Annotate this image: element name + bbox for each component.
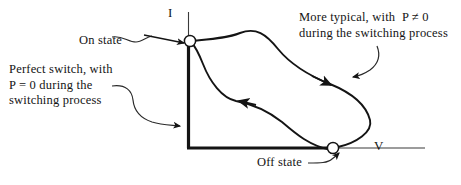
more-typical-leader [353, 46, 379, 77]
on-state-marker [184, 35, 195, 46]
off-state-label: Off state [257, 155, 302, 171]
lower-switching-curve [191, 42, 331, 150]
on-state-label: On state [79, 33, 122, 49]
off-state-marker [327, 142, 338, 153]
perfect-switch-leader [112, 86, 180, 126]
off-state-leader [308, 153, 339, 163]
more-typical-annotation: More typical, with P ≠ 0 during the swit… [299, 10, 448, 41]
on-state-leader-arrow [144, 35, 184, 43]
i-axis-label: I [168, 5, 172, 21]
upper-curve-direction-arrow [312, 76, 331, 85]
v-axis-label: V [374, 138, 383, 154]
iv-switching-diagram: I V On state Off state Perfect switch, w… [0, 0, 461, 185]
perfect-switch-annotation: Perfect switch, with P = 0 during the sw… [9, 62, 113, 109]
